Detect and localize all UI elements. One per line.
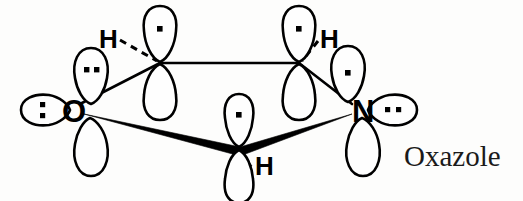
oxygen-lone-pair-left-dot-2 [40, 113, 45, 118]
nitrogen-lone-pair-right-dot-2 [396, 107, 401, 112]
atom-label-hydrogen-right: H [320, 26, 339, 52]
carbon-right-p-lobe-upper-dot [296, 26, 302, 32]
compound-name-label: Oxazole [404, 140, 501, 173]
carbon-left-p-lobe-upper [144, 6, 177, 62]
atom-label-hydrogen-left: H [99, 26, 118, 52]
atom-label-hydrogen-bottom: H [255, 153, 274, 179]
carbon-bottom-p-lobe-lower [225, 150, 254, 201]
carbon-left-p-lobe-upper-dot [157, 26, 163, 32]
carbon-left-p-lobe-lower [144, 64, 177, 120]
atom-label-nitrogen: N [352, 96, 374, 127]
carbon-bottom-p-lobe-upper [225, 94, 254, 147]
nitrogen-p-lobe-up-dot-1 [345, 70, 351, 76]
nitrogen-lone-pair-right-dot-1 [385, 107, 390, 112]
oxazole-orbital-diagram: O N H H H Oxazole [0, 0, 523, 201]
carbon-bottom-p-lobe-upper-dot [236, 112, 242, 118]
oxygen-lone-pair-up-dot-2 [94, 67, 99, 72]
oxygen-lone-pair-up-dot-1 [84, 67, 89, 72]
atom-label-oxygen: O [62, 96, 86, 127]
oxygen-lone-pair-left-dot-1 [40, 102, 45, 107]
carbon-right-p-lobe-upper [283, 6, 316, 62]
nitrogen-lone-pair-right-lobe [368, 95, 417, 126]
